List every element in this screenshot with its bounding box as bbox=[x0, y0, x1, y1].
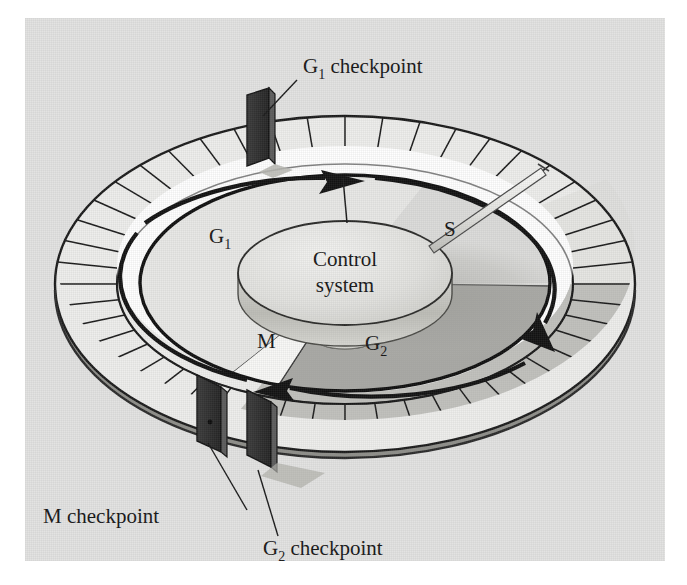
phase-label-m: M bbox=[257, 329, 276, 353]
checkpoint-gate-g1-edge bbox=[269, 88, 275, 164]
checkpoint-gate-m-bolt bbox=[208, 420, 213, 425]
checkpoint-gate-g2-edge bbox=[271, 402, 277, 472]
control-system-label-line1: Control bbox=[313, 247, 377, 271]
callout-m-checkpoint: M checkpoint bbox=[43, 504, 159, 528]
checkpoint-gate-g2-panel bbox=[247, 390, 271, 467]
figure-root: Control system bbox=[0, 0, 687, 585]
cell-cycle-diagram: Control system bbox=[25, 18, 665, 561]
control-system-label-line2: system bbox=[316, 273, 374, 297]
callout-g2-checkpoint: G2 checkpoint bbox=[263, 536, 383, 561]
checkpoint-gate-m-edge bbox=[221, 387, 227, 457]
callout-g1-checkpoint: G1 checkpoint bbox=[303, 54, 423, 82]
checkpoint-gate-m-panel bbox=[197, 375, 221, 452]
checkpoint-gate-g1-panel bbox=[247, 88, 269, 166]
phase-label-s: S bbox=[444, 217, 456, 241]
figure-panel: Control system bbox=[25, 18, 665, 561]
